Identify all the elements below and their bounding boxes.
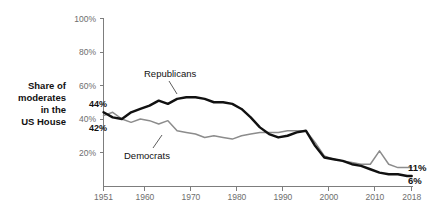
y-tick-label-80: 80% [79,47,96,57]
y-tick-label-60: 60% [79,81,96,91]
x-tick-label-1990: 1990 [273,192,292,202]
y-axis-title-line-4: US House [21,116,66,127]
x-tick-label-2018: 2018 [402,192,421,202]
y-tick-label-100: 100% [74,14,96,24]
series-group [104,97,412,176]
line-chart: 100% 80% 60% 40% 20% 1951 1960 1970 1980… [0,0,437,218]
chart-container: 100% 80% 60% 40% 20% 1951 1960 1970 1980… [0,0,437,218]
y-tick-label-20: 20% [79,148,96,158]
y-tick-labels: 100% 80% 60% 40% 20% [74,14,96,158]
x-tick-label-1960: 1960 [135,192,154,202]
series-label-democrats: Democrats [124,150,170,161]
x-tick-label-2010: 2010 [365,192,384,202]
x-tick-label-1951: 1951 [94,192,113,202]
x-tick-label-1980: 1980 [227,192,246,202]
series-label-republicans: Republicans [144,68,197,79]
y-axis-title-line-3: in the [41,104,66,115]
start-value-republicans: 44% [89,99,107,109]
republicans-leader-line [169,81,177,94]
y-axis-title: Share of moderates in the US House [18,80,67,127]
start-value-democrats: 42% [89,123,107,133]
x-tick-label-2000: 2000 [319,192,338,202]
x-tick-marks [104,187,412,191]
x-tick-labels: 1951 1960 1970 1980 1990 2000 2010 2018 [94,192,421,202]
x-tick-label-1970: 1970 [181,192,200,202]
democrats-leader-line [153,135,162,148]
leader-lines [153,81,177,148]
y-axis-title-line-1: Share of [28,80,67,91]
end-value-republicans: 6% [408,175,422,186]
end-value-democrats: 11% [408,162,427,173]
y-axis-title-line-2: moderates [18,92,66,103]
